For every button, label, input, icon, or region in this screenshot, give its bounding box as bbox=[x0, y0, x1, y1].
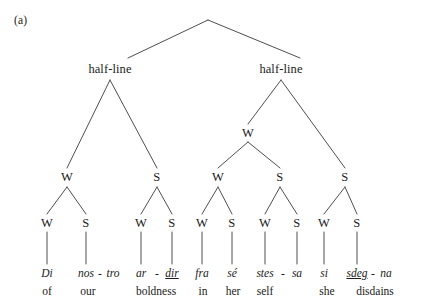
leaf-syllable-6: fra bbox=[195, 268, 208, 280]
leaf-syllable-7: sé bbox=[227, 268, 237, 280]
branch-foot4-s bbox=[280, 187, 297, 214]
gloss-1: of bbox=[42, 286, 52, 298]
branch-foot1-w bbox=[47, 187, 67, 214]
node-foot-3: W bbox=[212, 171, 224, 184]
branch-foot3-w bbox=[202, 187, 218, 214]
node-slot-5: W bbox=[196, 217, 208, 230]
node-foot-5: S bbox=[341, 171, 348, 184]
leaf-syllable-1: Di bbox=[41, 268, 53, 280]
branch-root-left bbox=[128, 20, 208, 58]
leaf-syllable-8: stes bbox=[256, 268, 273, 280]
leaf-syllable-11: sdeg bbox=[346, 268, 367, 280]
branch-foot5-s bbox=[345, 187, 357, 214]
gloss-7: she bbox=[319, 286, 334, 298]
node-half-line-left: half-line bbox=[88, 63, 131, 76]
node-foot-1: W bbox=[61, 171, 73, 184]
metrical-tree-figure: (a) bbox=[0, 0, 422, 308]
leaf-syllable-3: tro bbox=[107, 268, 120, 280]
branch-rhl-s bbox=[281, 80, 345, 168]
leaf-hyphen-3: - bbox=[281, 268, 285, 280]
branch-root-right bbox=[208, 20, 300, 58]
node-slot-1: W bbox=[41, 217, 53, 230]
branch-rw-w bbox=[218, 142, 248, 168]
branch-rhl-w bbox=[248, 80, 281, 124]
leaf-syllable-4: ar bbox=[136, 268, 146, 280]
branch-lhl-w bbox=[67, 80, 110, 168]
gloss-6: self bbox=[257, 286, 274, 298]
node-slot-8: S bbox=[293, 217, 300, 230]
branch-foot1-s bbox=[67, 187, 86, 214]
node-foot-2: S bbox=[153, 171, 160, 184]
node-slot-2: S bbox=[82, 217, 89, 230]
branch-rw-s bbox=[248, 142, 280, 168]
leaf-syllable-2: nos bbox=[78, 268, 94, 280]
node-foot-4: S bbox=[276, 171, 283, 184]
node-slot-7: W bbox=[259, 217, 271, 230]
node-slot-9: W bbox=[318, 217, 330, 230]
gloss-5: her bbox=[226, 286, 241, 298]
node-slot-10: S bbox=[353, 217, 360, 230]
tree-branch-lines bbox=[0, 0, 422, 308]
gloss-4: in bbox=[199, 286, 208, 298]
branch-foot4-w bbox=[265, 187, 280, 214]
leaf-syllable-10: si bbox=[320, 268, 328, 280]
leaf-hyphen-1: - bbox=[98, 268, 102, 280]
node-slot-4: S bbox=[168, 217, 175, 230]
node-slot-3: W bbox=[135, 217, 147, 230]
leaf-syllable-5: dir bbox=[165, 268, 178, 280]
gloss-2: our bbox=[80, 286, 95, 298]
branch-foot5-w bbox=[324, 187, 345, 214]
branch-foot2-w bbox=[141, 187, 157, 214]
gloss-8: disdains bbox=[356, 286, 394, 298]
branch-foot3-s bbox=[218, 187, 232, 214]
leaf-hyphen-4: - bbox=[371, 268, 375, 280]
leaf-syllable-12: na bbox=[380, 268, 392, 280]
branch-lhl-s bbox=[110, 80, 157, 168]
node-slot-6: S bbox=[228, 217, 235, 230]
node-half-line-right: half-line bbox=[259, 63, 302, 76]
leaf-syllable-9: sa bbox=[292, 268, 302, 280]
node-foot-group-w: W bbox=[242, 127, 254, 140]
gloss-3: boldness bbox=[136, 286, 176, 298]
leaf-hyphen-2: - bbox=[155, 268, 159, 280]
branch-foot2-s bbox=[157, 187, 172, 214]
